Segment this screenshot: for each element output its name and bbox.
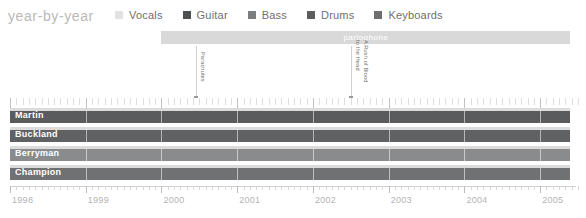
axis-tick-minor	[344, 98, 345, 105]
axis-tick-minor	[483, 186, 484, 190]
axis-year-label: 1998	[12, 195, 33, 205]
axis-tick-minor	[73, 186, 74, 190]
axis-year-label: 2000	[163, 195, 184, 205]
axis-tick-minor	[225, 98, 226, 105]
axis-tick-minor	[54, 98, 55, 105]
axis-tick-minor	[445, 98, 446, 105]
axis-tick-minor	[281, 98, 282, 105]
axis-tick-minor	[395, 186, 396, 190]
axis-tick-major	[540, 186, 541, 193]
axis-tick-major	[237, 98, 238, 108]
axis-tick-minor	[395, 98, 396, 105]
axis-tick-minor	[29, 186, 30, 190]
axis-tick-minor	[187, 98, 188, 105]
axis-tick-major	[10, 186, 11, 193]
legend-swatch-icon	[115, 11, 123, 19]
member-vocals-stripe	[10, 165, 570, 168]
axis-tick-minor	[376, 98, 377, 105]
axis-tick-minor	[117, 98, 118, 105]
axis-tick-minor	[206, 186, 207, 190]
axis-tick-minor	[376, 186, 377, 190]
axis-year-label: 2003	[391, 195, 412, 205]
axis-tick-minor	[174, 186, 175, 190]
axis-tick-minor	[48, 98, 49, 105]
axis-tick-minor	[565, 186, 566, 190]
legend-item-keyboards[interactable]: Keyboards	[374, 9, 442, 21]
legend-item-bass[interactable]: Bass	[248, 9, 287, 21]
legend-item-drums[interactable]: Drums	[307, 9, 354, 21]
axis-tick-minor	[231, 186, 232, 190]
annotation-label: Parachutes	[199, 52, 206, 82]
member-row[interactable]: Buckland	[0, 127, 586, 146]
axis-tick-minor	[319, 98, 320, 105]
axis-tick-minor	[294, 98, 295, 105]
axis-tick-major	[161, 186, 162, 193]
axis-tick-minor	[553, 186, 554, 190]
axis-tick-minor	[490, 186, 491, 190]
axis-tick-minor	[42, 98, 43, 105]
axis-tick-minor	[244, 186, 245, 190]
axis-tick-minor	[408, 186, 409, 190]
axis-tick-major	[464, 186, 465, 193]
legend-item-vocals[interactable]: Vocals	[115, 9, 163, 21]
member-name-label: Berryman	[15, 146, 59, 161]
axis-tick-minor	[553, 98, 554, 105]
axis-tick-minor	[483, 98, 484, 105]
axis-tick-minor	[275, 98, 276, 105]
axis-tick-minor	[363, 98, 364, 105]
axis-tick-minor	[136, 186, 137, 190]
axis-tick-minor	[168, 186, 169, 190]
axis-tick-minor	[60, 98, 61, 105]
axis-tick-minor	[79, 186, 80, 190]
axis-tick-minor	[54, 186, 55, 190]
axis-tick-major	[313, 98, 314, 108]
axis-tick-minor	[414, 98, 415, 105]
axis-tick-minor	[92, 186, 93, 190]
axis-tick-minor	[174, 98, 175, 105]
member-row[interactable]: Champion	[0, 165, 586, 184]
axis-tick-major	[237, 186, 238, 193]
axis-tick-minor	[439, 186, 440, 190]
legend-item-guitar[interactable]: Guitar	[183, 9, 228, 21]
axis-tick-minor	[528, 186, 529, 190]
axis-tick-minor	[471, 98, 472, 105]
axis-tick-minor	[332, 186, 333, 190]
axis-tick-minor	[445, 186, 446, 190]
legend-label: Keyboards	[388, 9, 442, 21]
axis-tick-minor	[477, 186, 478, 190]
axis-tick-minor	[143, 186, 144, 190]
axis-tick-minor	[35, 98, 36, 105]
axis-tick-minor	[300, 98, 301, 105]
album-annotations: ParachutesA Rush of Bloodto the Head	[0, 44, 586, 98]
axis-tick-minor	[155, 98, 156, 105]
axis-tick-minor	[509, 98, 510, 105]
axis-tick-minor	[401, 98, 402, 105]
annotation-label-line2: to the Head	[354, 40, 361, 82]
axis-rule	[10, 186, 576, 187]
axis-tick-minor	[288, 186, 289, 190]
axis-tick-minor	[35, 186, 36, 190]
axis-tick-minor	[60, 186, 61, 190]
member-row[interactable]: Martin	[0, 108, 586, 127]
axis-tick-minor	[105, 98, 106, 105]
axis-tick-minor	[269, 98, 270, 105]
axis-tick-major	[389, 186, 390, 193]
legend-label: Vocals	[129, 9, 163, 21]
axis-tick-minor	[218, 98, 219, 105]
annotation-label-line1: Parachutes	[200, 52, 206, 82]
axis-tick-major	[161, 98, 162, 108]
axis-tick-minor	[180, 186, 181, 190]
axis-tick-minor	[534, 98, 535, 105]
axis-tick-minor	[546, 186, 547, 190]
axis-tick-minor	[546, 98, 547, 105]
axis-tick-minor	[414, 186, 415, 190]
axis-tick-minor	[218, 186, 219, 190]
axis-tick-minor	[130, 186, 131, 190]
axis-tick-minor	[124, 98, 125, 105]
member-name-label: Buckland	[15, 127, 58, 142]
member-row[interactable]: Berryman	[0, 146, 586, 165]
axis-year-label: 1999	[88, 195, 109, 205]
axis-tick-minor	[111, 98, 112, 105]
axis-tick-minor	[143, 98, 144, 105]
axis-tick-minor	[502, 98, 503, 105]
